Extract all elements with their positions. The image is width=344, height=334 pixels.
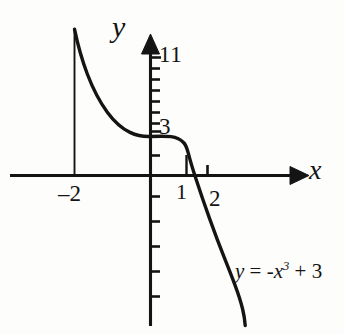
equation-tail: + 3 [289,259,322,283]
equation-minus-sign: - [267,259,274,283]
equation-base: x [274,259,283,283]
x-tick-label-2: 2 [209,187,221,210]
x-tick-label-1: 1 [176,181,187,203]
graph-figure: y x 11 3 –2 1 2 y = -x3 + 3 [0,0,344,334]
y-axis-label: y [112,12,125,42]
cubic-curve [75,29,246,325]
y-tick-label-3: 3 [159,115,171,138]
x-tick-label-minus-2: –2 [58,182,81,205]
y-tick-label-11: 11 [159,43,182,66]
curve-equation-label: y = -x3 + 3 [235,261,322,282]
y-axis-arrowhead [142,34,160,54]
x-axis-label: x [309,156,321,184]
equation-lhs: y [235,259,244,283]
x-axis-arrowhead [290,167,309,185]
equation-equals: = [244,259,266,283]
